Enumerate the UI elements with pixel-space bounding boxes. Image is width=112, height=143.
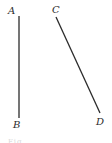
point-label-c: C xyxy=(52,5,60,15)
point-label-d: D xyxy=(96,117,104,127)
line-segments-figure: A B C D Fig. … xyxy=(0,0,112,143)
figure-caption: Fig. … xyxy=(8,138,37,143)
point-label-b: B xyxy=(13,120,20,130)
segment-cd xyxy=(56,17,100,113)
point-label-a: A xyxy=(8,6,15,16)
